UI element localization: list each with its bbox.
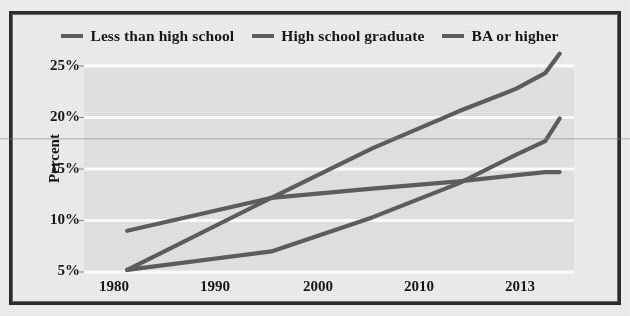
y-axis-tick-marks <box>78 66 84 272</box>
chart-figure: Less than high school High school gradua… <box>0 0 630 316</box>
plot-area-wrapper: Percent 25% 20% 15% 10% 5% 1980 1990 200… <box>0 0 630 316</box>
chart-svg <box>0 0 630 316</box>
